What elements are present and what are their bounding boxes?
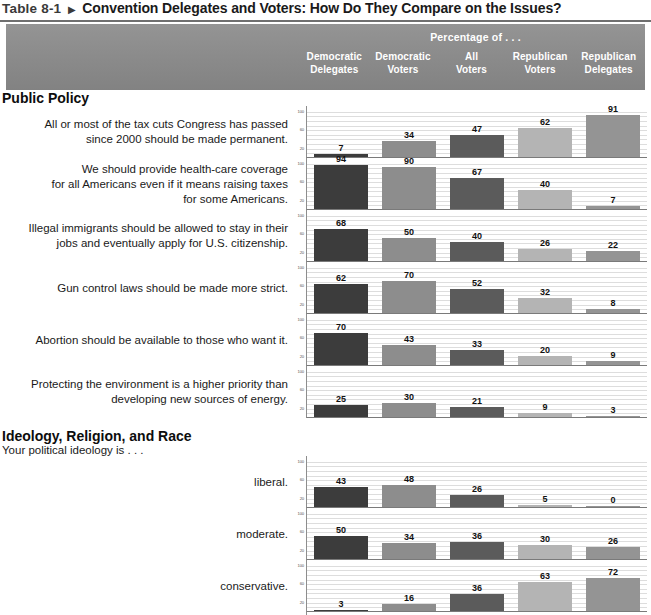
y-axis-tick: 100 [298,110,304,114]
bar-cell[interactable]: 33 [443,314,511,365]
column-header-2: DemocraticVoters [369,50,438,76]
bar[interactable] [314,610,368,612]
bar-cell[interactable]: 50 [307,508,375,559]
bar-cell[interactable]: 30 [511,508,579,559]
column-header-line1: Republican [506,50,575,63]
bar-cell[interactable]: 70 [375,262,443,313]
bar-cell[interactable]: 67 [443,158,511,209]
bar-cell[interactable]: 91 [579,106,647,157]
bar-cell[interactable]: 43 [307,456,375,507]
bar[interactable] [586,578,640,611]
bar-cell[interactable]: 7 [307,106,375,157]
y-axis-tick: 100 [298,564,304,568]
bar[interactable] [450,178,504,209]
bar[interactable] [586,309,640,313]
y-axis: 1006020 [292,262,305,314]
bar-cell[interactable]: 32 [511,262,579,313]
bar-cell[interactable]: 70 [307,314,375,365]
bar[interactable] [382,167,436,209]
bar[interactable] [586,361,640,365]
bar-cell[interactable]: 7 [579,158,647,209]
bar-cell[interactable]: 63 [511,560,579,611]
bar[interactable] [450,407,504,417]
y-axis-tick: 20 [300,601,304,605]
bar-cell[interactable]: 26 [511,210,579,261]
bar-cell[interactable]: 52 [443,262,511,313]
bar[interactable] [314,165,368,209]
bar[interactable] [382,604,436,611]
bar[interactable] [586,547,640,559]
bar-cell[interactable]: 47 [443,106,511,157]
y-axis-tick: 100 [298,318,304,322]
bar[interactable] [518,128,572,157]
bar-cell[interactable]: 9 [579,314,647,365]
bar[interactable] [518,505,572,507]
bar[interactable] [518,413,572,417]
bar[interactable] [450,350,504,365]
bar[interactable] [382,238,436,261]
y-axis: 1006020 [292,314,305,366]
bar-cell[interactable]: 9 [511,366,579,417]
bar-cell[interactable]: 25 [307,366,375,417]
bar-cell[interactable]: 22 [579,210,647,261]
bar[interactable] [382,403,436,417]
bar[interactable] [314,405,368,417]
bar[interactable] [382,485,436,507]
bar[interactable] [450,135,504,157]
bar[interactable] [314,487,368,507]
bar-cell[interactable]: 62 [307,262,375,313]
bar-cell[interactable]: 68 [307,210,375,261]
bar[interactable] [518,356,572,365]
bar-cell[interactable]: 30 [375,366,443,417]
bar-cell[interactable]: 26 [579,508,647,559]
bar-cell[interactable]: 34 [375,508,443,559]
bar[interactable] [450,542,504,559]
bar-cell[interactable]: 36 [443,560,511,611]
bar[interactable] [450,242,504,261]
bar[interactable] [518,298,572,313]
bar[interactable] [518,545,572,559]
bar-cell[interactable]: 36 [443,508,511,559]
bar[interactable] [518,190,572,209]
bar-cell[interactable]: 3 [579,366,647,417]
bar-cell[interactable]: 16 [375,560,443,611]
bar-value-label: 36 [443,531,511,541]
bar-cell[interactable]: 50 [375,210,443,261]
bar-cell[interactable]: 90 [375,158,443,209]
row-label-line: since 2000 should be made permanent. [0,132,288,147]
bar-cell[interactable]: 3 [307,560,375,611]
bar[interactable] [382,345,436,365]
bar[interactable] [586,206,640,209]
bar[interactable] [382,281,436,314]
bar-cell[interactable]: 34 [375,106,443,157]
bar[interactable] [586,506,640,508]
bar[interactable] [586,416,640,418]
bar-cell[interactable]: 43 [375,314,443,365]
bar[interactable] [314,333,368,366]
bar[interactable] [586,251,640,261]
bar[interactable] [314,229,368,261]
bar[interactable] [450,594,504,611]
bar-cell[interactable]: 62 [511,106,579,157]
bar-cell[interactable]: 5 [511,456,579,507]
bar[interactable] [518,582,572,611]
bar-cell[interactable]: 26 [443,456,511,507]
bar-cell[interactable]: 48 [375,456,443,507]
bar-cell[interactable]: 72 [579,560,647,611]
bar-cell[interactable]: 0 [579,456,647,507]
bar[interactable] [382,141,436,157]
plot-area: 704333209 [306,314,647,366]
bar-cell[interactable]: 94 [307,158,375,209]
bar-cell[interactable]: 8 [579,262,647,313]
bar-cell[interactable]: 21 [443,366,511,417]
bar-cell[interactable]: 40 [443,210,511,261]
bar[interactable] [382,543,436,559]
bar-cell[interactable]: 20 [511,314,579,365]
bar[interactable] [586,115,640,157]
bar[interactable] [450,495,504,507]
bar[interactable] [314,284,368,313]
bar-cell[interactable]: 40 [511,158,579,209]
bar[interactable] [314,536,368,559]
bar[interactable] [450,289,504,313]
bar[interactable] [518,249,572,261]
